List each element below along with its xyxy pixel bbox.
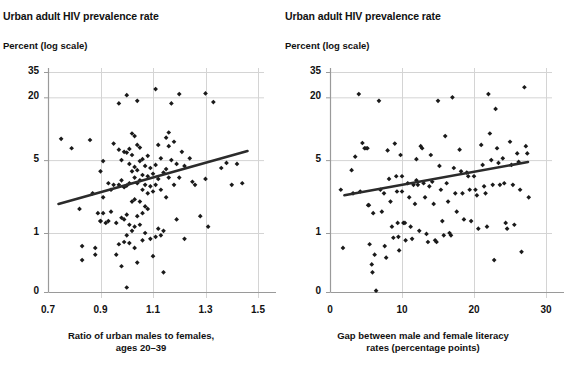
y-tick-label: 20 (15, 90, 39, 101)
x-axis-label-right: Gap between male and female literacy rat… (282, 330, 564, 353)
x-tick-label: 30 (526, 304, 564, 315)
x-tick-label: 1.1 (133, 304, 173, 315)
x-tick-label: 1.5 (238, 304, 278, 315)
y-tick-label: 35 (297, 65, 321, 76)
y-tick-label: 5 (297, 153, 321, 164)
y-tick-label: 35 (15, 65, 39, 76)
chart-panel-left: Urban adult HIV prevalence rate Percent … (0, 0, 282, 373)
x-axis-label-left-line2: ages 20–39 (116, 342, 167, 353)
y-tick-label: 20 (297, 90, 321, 101)
scatter-plot-left: 01520350.70.91.11.31.5 (0, 0, 282, 373)
x-tick-label: 10 (382, 304, 422, 315)
y-tick-label: 1 (15, 226, 39, 237)
x-tick-label: 0.7 (28, 304, 68, 315)
x-axis-label-right-line1: Gap between male and female literacy (337, 330, 509, 341)
x-axis-label-right-line2: rates (percentage points) (366, 342, 480, 353)
x-tick-label: 20 (454, 304, 494, 315)
scatter-plot-right: 01520350102030 (282, 0, 564, 373)
y-tick-label: 0 (297, 285, 321, 296)
y-tick-label: 1 (297, 226, 321, 237)
x-axis-label-left-line1: Ratio of urban males to females, (68, 330, 214, 341)
x-tick-label: 1.3 (186, 304, 226, 315)
y-tick-label: 0 (15, 285, 39, 296)
y-tick-label: 5 (15, 153, 39, 164)
x-tick-label: 0.9 (81, 304, 121, 315)
x-axis-label-left: Ratio of urban males to females, ages 20… (0, 330, 282, 353)
chart-panel-right: Urban adult HIV prevalence rate Percent … (282, 0, 564, 373)
x-tick-label: 0 (310, 304, 350, 315)
